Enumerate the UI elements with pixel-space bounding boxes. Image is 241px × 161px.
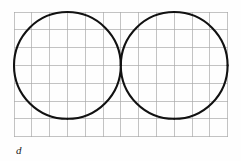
lower-arc-left-half-path xyxy=(14,65,67,118)
lower-arc-right-half-path xyxy=(174,65,227,118)
arc-diagram-svg xyxy=(0,0,241,161)
figure-caption-label: d xyxy=(16,144,22,157)
figure-container: d xyxy=(0,0,241,161)
